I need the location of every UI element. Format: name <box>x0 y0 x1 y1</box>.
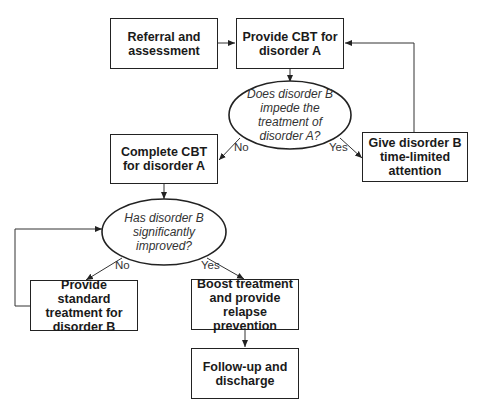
node-decision-improved-label: Has disorder B significantly improved? <box>124 211 204 253</box>
node-decision-improved: Has disorder B significantly improved? <box>124 203 204 261</box>
node-complete-cbt: Complete CBT for disorder A <box>110 134 218 184</box>
arrow-feedback-to-cbt <box>345 43 414 132</box>
node-follow-up: Follow-up and discharge <box>191 348 299 399</box>
node-give-attention: Give disorder B time-limited attention <box>362 132 468 182</box>
node-give-attention-label: Give disorder B time-limited attention <box>367 136 463 178</box>
edge-label-impede-yes: Yes <box>329 141 348 153</box>
edge-label-impede-no: No <box>234 141 249 153</box>
node-referral-label: Referral and assessment <box>115 30 213 58</box>
node-provide-cbt-label: Provide CBT for disorder A <box>241 30 339 58</box>
node-decision-impede-label: Does disorder B impede the treatment of … <box>240 87 340 143</box>
edge-label-improved-no: No <box>115 259 130 271</box>
node-boost-treatment: Boost treatment and provide relapse prev… <box>191 279 299 330</box>
edge-label-improved-yes: Yes <box>201 259 220 271</box>
node-complete-cbt-label: Complete CBT for disorder A <box>115 145 213 173</box>
node-decision-impede: Does disorder B impede the treatment of … <box>240 86 340 144</box>
node-boost-treatment-label: Boost treatment and provide relapse prev… <box>196 277 294 333</box>
node-referral: Referral and assessment <box>110 18 218 69</box>
node-provide-cbt: Provide CBT for disorder A <box>236 18 344 69</box>
node-follow-up-label: Follow-up and discharge <box>196 360 294 388</box>
node-standard-treatment: Provide standard treatment for disorder … <box>30 280 138 331</box>
node-standard-treatment-label: Provide standard treatment for disorder … <box>35 278 133 334</box>
